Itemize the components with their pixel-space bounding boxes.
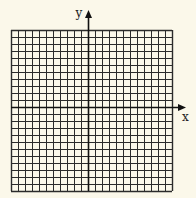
- coordinate-grid-diagram: y x: [0, 0, 196, 198]
- grid-svg: [0, 0, 196, 198]
- x-axis-label: x: [182, 110, 189, 124]
- grid-lines: [11, 30, 173, 192]
- y-axis-arrow-icon: [85, 10, 92, 18]
- y-axis-label: y: [76, 6, 83, 20]
